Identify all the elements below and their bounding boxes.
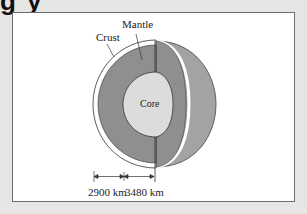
core-radius-label: 3480 km <box>125 186 164 198</box>
dimension-line <box>94 171 154 182</box>
mantle-thickness-label: 2900 km <box>88 186 127 198</box>
crust-label: Crust <box>96 31 120 43</box>
crust-leader <box>107 44 114 57</box>
mantle-label: Mantle <box>122 18 153 30</box>
core-label: Core <box>140 98 159 109</box>
